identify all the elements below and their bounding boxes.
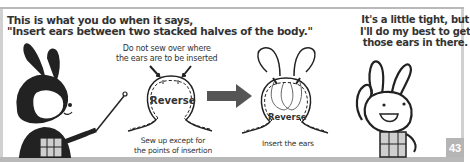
speech-line-1: It's a little tight, but bbox=[360, 14, 470, 26]
note-line-2: the ears are to be inserted bbox=[116, 54, 218, 64]
step1-caption: Sew up except for the points of insertio… bbox=[134, 136, 212, 155]
step1-reverse-label: Reverse bbox=[150, 95, 195, 106]
speech-line-3: those ears in there. bbox=[360, 37, 470, 49]
note-line-1: Do not sew over where bbox=[116, 44, 218, 54]
arrow-right-icon bbox=[207, 84, 252, 108]
step2-caption: Insert the ears bbox=[262, 139, 314, 148]
speech-line-2: I'll do my best to get bbox=[360, 26, 470, 38]
rabbit-cheering-illustration bbox=[357, 61, 416, 157]
step1-caption-line-2: the points of insertion bbox=[134, 146, 212, 156]
diagram-note: Do not sew over where the ears are to be… bbox=[116, 44, 218, 64]
step2-reverse-label: Reverse bbox=[268, 112, 307, 122]
speech-text: It's a little tight, but I'll do my best… bbox=[360, 14, 470, 49]
page-number-badge: 43 bbox=[446, 138, 464, 157]
header-line-2: "Insert ears between two stacked halves … bbox=[7, 25, 313, 37]
step1-caption-line-1: Sew up except for bbox=[134, 136, 212, 146]
rabbit-teacher-illustration bbox=[17, 44, 127, 157]
